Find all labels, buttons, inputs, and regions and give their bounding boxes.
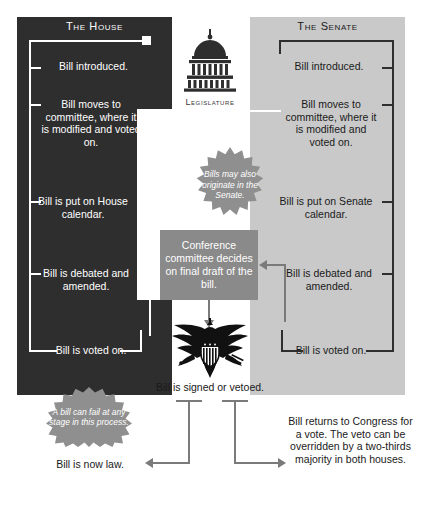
house-bracket-top: [29, 40, 142, 42]
house-step-2: Bill moves to committee, where it is mod…: [41, 98, 141, 148]
senate-step-1: Bill introduced.: [278, 60, 380, 73]
infographic-canvas: The House Bill introduced. Bill moves to…: [0, 0, 422, 521]
center-connector-left: [149, 110, 151, 336]
capitol-dome-icon: [176, 28, 244, 94]
house-step-4: Bill is debated and amended.: [33, 267, 139, 292]
veto-path-horiz: [234, 462, 278, 464]
outcome-veto: Bill returns to Congress for a vote. The…: [288, 415, 413, 465]
law-path-vert: [188, 400, 190, 464]
conference-committee-box: Conference committee decides on final dr…: [160, 230, 258, 300]
legislature-caption: Legislature: [160, 97, 260, 107]
house-bracket-close-vert: [140, 330, 142, 352]
senate-bracket-spine: [392, 40, 394, 352]
house-bracket-close-horiz: [120, 350, 142, 352]
note-origination-text: Bills may also originate in the Senate.: [191, 169, 269, 201]
eagle-seal-icon: [168, 318, 252, 380]
senate-step-3: Bill is put on Senate calendar.: [272, 195, 380, 220]
veto-path-arrowhead: [278, 458, 286, 468]
veto-path-vert: [234, 400, 236, 464]
senate-tick-2: [382, 104, 394, 106]
senate-step-4: Bill is debated and amended.: [278, 267, 380, 292]
senate-to-conference-horiz: [266, 264, 286, 266]
center-connector-top: [149, 110, 281, 112]
house-tick-1: [29, 67, 41, 69]
outcome-law: Bill is now law.: [20, 458, 160, 471]
senate-tick-1: [382, 67, 394, 69]
note-failure: A bill can fail at any stage in this pro…: [39, 386, 139, 448]
senate-title: The Senate: [250, 20, 405, 32]
executive-caption: Bill is signed or vetoed.: [140, 381, 280, 394]
house-title: The House: [17, 20, 172, 32]
house-step-3: Bill is put on House calendar.: [27, 195, 139, 220]
senate-tick-4: [382, 273, 394, 275]
senate-to-conference-vert: [284, 264, 286, 322]
senate-tick-3: [382, 201, 394, 203]
senate-bracket-top-drop: [279, 40, 281, 54]
house-bracket-cap: [142, 36, 151, 45]
house-tick-2: [29, 104, 41, 106]
house-step-1: Bill introduced.: [41, 60, 146, 73]
note-origination: Bills may also originate in the Senate.: [191, 146, 269, 224]
senate-bracket-close-horiz: [281, 350, 303, 352]
senate-bracket-top: [279, 40, 394, 42]
senate-step-2: Bill moves to committee, where it is mod…: [282, 98, 380, 148]
note-failure-text: A bill can fail at any stage in this pro…: [39, 407, 139, 428]
senate-bracket-close-vert: [281, 330, 283, 352]
senate-to-conference-arrowhead: [259, 260, 267, 270]
